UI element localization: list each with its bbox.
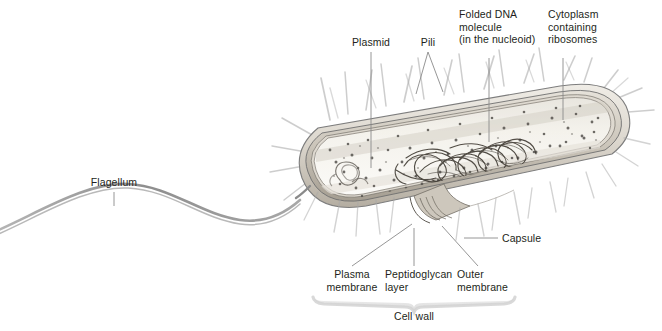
label-flagellum: Flagellum [82,176,146,189]
label-pili: Pili [406,36,450,49]
flagellum [0,184,310,236]
label-outer-membrane: Outer membrane [457,268,527,293]
label-plasma-membrane: Plasma membrane [318,268,386,293]
label-plasmid: Plasmid [342,36,400,49]
label-cell-wall: Cell wall [384,310,444,323]
leader-plasma-membrane [352,224,412,266]
leader-outer-membrane [442,226,478,266]
label-cytoplasm-ribosomes: Cytoplasm containing ribosomes [548,8,634,46]
label-peptidoglycan-layer: Peptidoglycan layer [385,268,463,293]
label-capsule: Capsule [502,232,562,245]
bacterial-cell-figure: Plasmid Pili Folded DNA molecule (in the… [0,0,662,331]
